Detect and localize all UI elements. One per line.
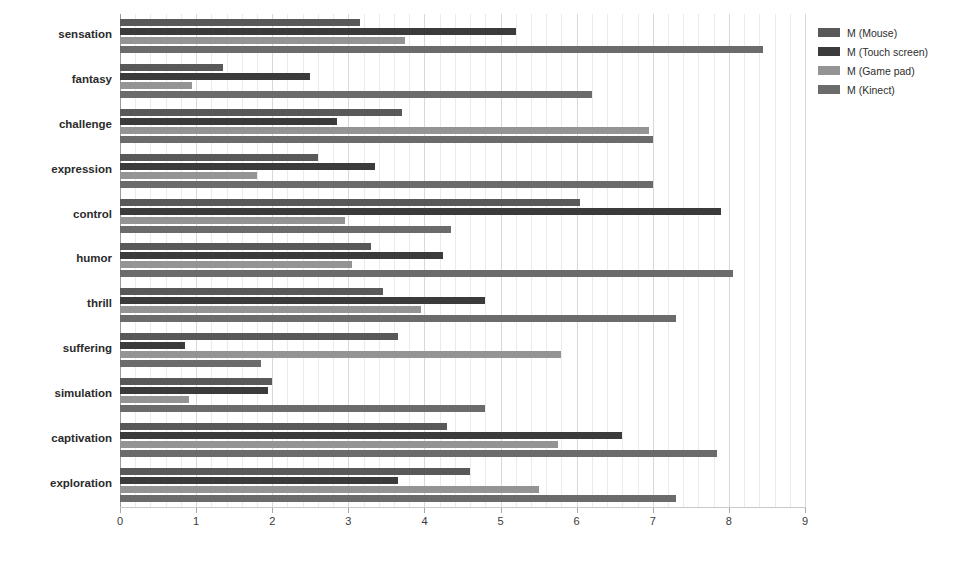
legend-item: M (Kinect) xyxy=(818,81,973,98)
bar-group: exploration xyxy=(0,462,977,507)
x-tick-label: 0 xyxy=(100,515,140,527)
bar-control-2 xyxy=(120,208,721,215)
bar-simulation-4 xyxy=(120,405,485,412)
bar-chart: sensationfantasychallengeexpressioncontr… xyxy=(0,0,977,564)
category-label-captivation: captivation xyxy=(0,432,112,444)
bar-suffering-2 xyxy=(120,342,185,349)
x-tick-label: 6 xyxy=(557,515,597,527)
bar-captivation-1 xyxy=(120,423,447,430)
x-axis-line xyxy=(120,507,806,508)
bar-thrill-3 xyxy=(120,306,421,313)
bar-group: control xyxy=(0,193,977,238)
bar-humor-4 xyxy=(120,270,733,277)
x-tick-label: 7 xyxy=(633,515,673,527)
bar-humor-2 xyxy=(120,252,443,259)
bar-sensation-4 xyxy=(120,46,763,53)
bar-captivation-4 xyxy=(120,450,717,457)
category-label-humor: humor xyxy=(0,252,112,264)
x-tick xyxy=(348,508,349,513)
x-tick-label: 1 xyxy=(176,515,216,527)
bar-control-3 xyxy=(120,217,345,224)
legend-label: M (Mouse) xyxy=(847,27,897,39)
bar-fantasy-2 xyxy=(120,73,310,80)
category-label-thrill: thrill xyxy=(0,297,112,309)
category-label-expression: expression xyxy=(0,163,112,175)
bar-suffering-4 xyxy=(120,360,261,367)
bar-challenge-1 xyxy=(120,109,402,116)
category-label-exploration: exploration xyxy=(0,477,112,489)
bar-group: simulation xyxy=(0,373,977,418)
bar-humor-3 xyxy=(120,261,352,268)
bar-sensation-2 xyxy=(120,28,516,35)
chart-legend: M (Mouse)M (Touch screen)M (Game pad)M (… xyxy=(818,24,973,100)
bar-expression-2 xyxy=(120,163,375,170)
legend-item: M (Game pad) xyxy=(818,62,973,79)
x-tick xyxy=(120,508,121,513)
bar-group: suffering xyxy=(0,328,977,373)
bar-control-1 xyxy=(120,199,580,206)
bar-group: captivation xyxy=(0,417,977,462)
bar-group: humor xyxy=(0,238,977,283)
bar-group: challenge xyxy=(0,104,977,149)
bar-group: thrill xyxy=(0,283,977,328)
legend-item: M (Touch screen) xyxy=(818,43,973,60)
x-tick xyxy=(196,508,197,513)
bar-simulation-3 xyxy=(120,396,189,403)
x-tick xyxy=(805,508,806,513)
bar-sensation-3 xyxy=(120,37,405,44)
category-label-simulation: simulation xyxy=(0,387,112,399)
bar-suffering-1 xyxy=(120,333,398,340)
bar-captivation-3 xyxy=(120,441,558,448)
category-label-fantasy: fantasy xyxy=(0,73,112,85)
legend-swatch-icon xyxy=(818,66,840,75)
bar-expression-3 xyxy=(120,172,257,179)
category-label-sensation: sensation xyxy=(0,28,112,40)
bar-challenge-3 xyxy=(120,127,649,134)
x-tick-label: 5 xyxy=(481,515,521,527)
bar-group: expression xyxy=(0,148,977,193)
bar-challenge-2 xyxy=(120,118,337,125)
bar-thrill-2 xyxy=(120,297,485,304)
bar-exploration-2 xyxy=(120,477,398,484)
bar-exploration-1 xyxy=(120,468,470,475)
bar-expression-1 xyxy=(120,154,318,161)
legend-swatch-icon xyxy=(818,47,840,56)
legend-swatch-icon xyxy=(818,28,840,37)
bar-fantasy-4 xyxy=(120,91,592,98)
category-label-suffering: suffering xyxy=(0,342,112,354)
bar-fantasy-3 xyxy=(120,82,192,89)
bar-simulation-1 xyxy=(120,378,272,385)
x-tick-label: 8 xyxy=(709,515,749,527)
bar-humor-1 xyxy=(120,243,371,250)
x-tick-label: 3 xyxy=(328,515,368,527)
bar-exploration-3 xyxy=(120,486,539,493)
legend-label: M (Game pad) xyxy=(847,65,915,77)
x-tick xyxy=(424,508,425,513)
bar-suffering-3 xyxy=(120,351,561,358)
bar-thrill-1 xyxy=(120,288,383,295)
bar-challenge-4 xyxy=(120,136,653,143)
x-tick xyxy=(729,508,730,513)
bar-sensation-1 xyxy=(120,19,360,26)
bar-expression-4 xyxy=(120,181,653,188)
category-label-challenge: challenge xyxy=(0,118,112,130)
x-tick xyxy=(577,508,578,513)
x-tick xyxy=(501,508,502,513)
bar-simulation-2 xyxy=(120,387,268,394)
legend-swatch-icon xyxy=(818,85,840,94)
x-tick xyxy=(653,508,654,513)
bar-exploration-4 xyxy=(120,495,676,502)
category-label-control: control xyxy=(0,208,112,220)
legend-item: M (Mouse) xyxy=(818,24,973,41)
legend-label: M (Kinect) xyxy=(847,84,895,96)
x-tick xyxy=(272,508,273,513)
x-tick-label: 9 xyxy=(785,515,825,527)
x-tick-label: 2 xyxy=(252,515,292,527)
bar-thrill-4 xyxy=(120,315,676,322)
legend-label: M (Touch screen) xyxy=(847,46,928,58)
bar-fantasy-1 xyxy=(120,64,223,71)
x-tick-label: 4 xyxy=(404,515,444,527)
bar-captivation-2 xyxy=(120,432,622,439)
bar-control-4 xyxy=(120,226,451,233)
